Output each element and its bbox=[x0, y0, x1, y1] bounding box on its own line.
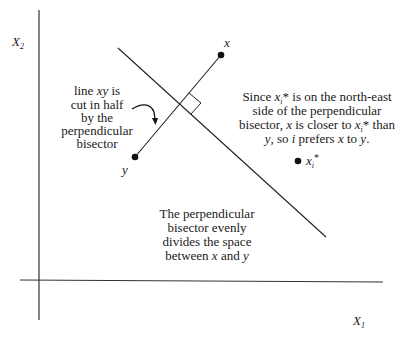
svg-text:line xy is: line xy is bbox=[74, 83, 120, 98]
left-annotation: line xy is cut in half by the perpendicu… bbox=[61, 83, 133, 151]
point-ideal-label: xi* bbox=[305, 152, 319, 170]
bottom-annotation: The perpendicular bisector evenly divide… bbox=[160, 206, 256, 263]
y-axis-label: X2 bbox=[11, 34, 24, 51]
svg-text:divides the space: divides the space bbox=[163, 234, 252, 249]
point-y-label: y bbox=[120, 162, 128, 177]
svg-text:between x and y: between x and y bbox=[165, 248, 249, 263]
curved-arrow bbox=[132, 105, 155, 119]
svg-text:y, so i prefers x to y.: y, so i prefers x to y. bbox=[263, 131, 370, 146]
perpendicular-bisector-diagram: X2 X1 x y xi* line xy is cut in half by … bbox=[0, 0, 405, 340]
svg-text:side of the perpendicular: side of the perpendicular bbox=[253, 103, 383, 118]
x-axis-label: X1 bbox=[352, 313, 365, 330]
right-annotation: Since xi* is on the north-east side of t… bbox=[239, 89, 395, 146]
point-x bbox=[218, 52, 225, 59]
svg-text:The perpendicular: The perpendicular bbox=[160, 206, 256, 221]
x-axis bbox=[20, 280, 383, 282]
point-y bbox=[132, 154, 139, 161]
point-ideal-xi-star bbox=[295, 158, 302, 165]
svg-text:bisector: bisector bbox=[76, 136, 118, 151]
svg-text:bisector evenly: bisector evenly bbox=[167, 220, 247, 235]
right-angle-marker bbox=[189, 93, 201, 114]
arrow-head-icon bbox=[152, 118, 158, 125]
point-x-label: x bbox=[223, 35, 230, 50]
